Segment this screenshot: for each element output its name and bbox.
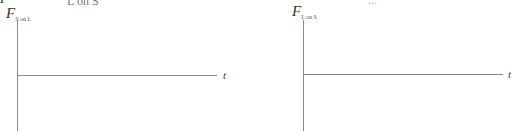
y-axis-label: FS on L [6,5,31,21]
x-axis-label: t [508,68,511,80]
y-axis-line [303,20,304,131]
x-axis-line [17,75,217,76]
graph-force-s-on-l: FS on L t [0,0,240,131]
x-axis-line [303,74,503,75]
y-axis-variable: F [6,5,15,21]
x-axis-label: t [223,69,226,81]
y-axis-label: FL on S [292,3,317,19]
y-axis-variable: F [292,3,301,19]
graph-force-l-on-s: FL on S t [286,0,512,131]
